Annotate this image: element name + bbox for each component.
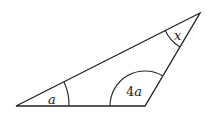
angle-arc-a xyxy=(64,82,69,106)
angle-label-x: x xyxy=(174,28,182,43)
angle-label-a: a xyxy=(48,92,56,107)
angle-label-4a: 4a xyxy=(126,84,142,99)
triangle-diagram: a 4a x xyxy=(0,0,208,116)
triangle xyxy=(16,13,200,106)
